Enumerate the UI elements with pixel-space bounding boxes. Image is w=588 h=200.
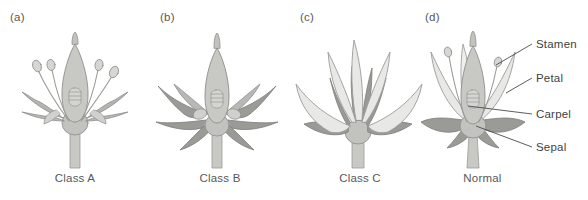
leader-lines bbox=[0, 0, 588, 200]
leader-line-petal bbox=[506, 78, 532, 93]
leader-line-carpel bbox=[468, 106, 532, 114]
annotation-label-carpel: Carpel bbox=[536, 108, 571, 120]
flower-structure-figure: (a) bbox=[0, 0, 588, 200]
annotation-label-stamen: Stamen bbox=[536, 38, 577, 50]
annotation-label-petal: Petal bbox=[536, 72, 563, 84]
leader-line-stamen bbox=[496, 44, 532, 65]
annotation-layer: Stamen Petal Carpel Sepal bbox=[0, 0, 588, 200]
annotation-label-sepal: Sepal bbox=[536, 141, 566, 153]
leader-line-sepal bbox=[476, 126, 532, 147]
